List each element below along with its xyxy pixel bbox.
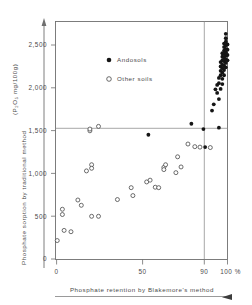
data-point — [90, 214, 94, 218]
data-point — [189, 122, 193, 126]
data-point — [90, 166, 94, 170]
legend-marker-andosols — [107, 58, 112, 63]
data-point — [226, 48, 230, 52]
legend-label-other-soils: Other soils — [117, 75, 153, 82]
data-point — [174, 171, 178, 175]
plot-canvas: 0 500 1,000 1,500 2,000 2,500 0 50 90 10… — [0, 0, 252, 305]
x-axis-title-arrow — [222, 294, 232, 300]
data-point — [97, 124, 101, 128]
data-point — [217, 81, 221, 85]
data-point — [88, 127, 92, 131]
data-point — [131, 194, 135, 198]
data-point — [219, 87, 223, 91]
data-point — [202, 127, 206, 131]
y-axis-spine — [42, 18, 47, 268]
x-tick-label-100: 100 % — [220, 268, 241, 275]
data-point — [115, 198, 119, 202]
data-point — [157, 186, 161, 190]
data-point — [148, 178, 152, 182]
x-tick-label-50: 50 — [139, 268, 147, 275]
data-point — [220, 77, 224, 81]
data-point — [84, 169, 88, 173]
data-point — [129, 186, 133, 190]
y-tick-label-1500: 1,500 — [29, 127, 48, 134]
data-point — [79, 203, 83, 207]
data-point — [198, 145, 202, 149]
data-point — [193, 145, 197, 149]
legend-label-andosols: Andosols — [117, 56, 147, 63]
data-point — [210, 109, 214, 113]
legend-marker-other-soils — [107, 77, 112, 82]
x-tick-label-90: 90 — [200, 268, 208, 275]
series-andosols — [146, 32, 229, 149]
x-tick-marks — [57, 260, 228, 265]
data-point — [69, 230, 73, 234]
data-point — [176, 155, 180, 159]
data-point — [55, 239, 59, 243]
data-point — [215, 91, 219, 95]
data-point — [220, 82, 224, 86]
data-point — [214, 87, 218, 91]
data-point — [224, 32, 228, 36]
data-point — [76, 198, 80, 202]
x-axis-title: Phosphate retention by Blakemore's metho… — [70, 286, 214, 293]
y-axis-unit: (P₂O₅ mg/100g) — [11, 64, 18, 115]
data-point — [186, 142, 190, 146]
data-point — [226, 53, 230, 57]
data-point — [62, 228, 66, 232]
data-point — [222, 73, 226, 77]
data-point — [146, 133, 150, 137]
data-point — [217, 97, 221, 101]
data-point — [212, 102, 216, 106]
y-tick-label-0: 0 — [43, 255, 47, 262]
scatter-plot-figure: 0 500 1,000 1,500 2,000 2,500 0 50 90 10… — [0, 0, 252, 305]
data-point — [217, 126, 221, 130]
data-point — [179, 165, 183, 169]
data-point — [226, 43, 230, 47]
data-point — [203, 145, 207, 149]
y-tick-label-2500: 2,500 — [29, 41, 48, 48]
data-point — [224, 36, 228, 40]
data-point — [226, 58, 230, 62]
data-point — [60, 207, 64, 211]
data-point — [60, 213, 64, 217]
legend: Andosols Other soils — [107, 56, 153, 82]
y-tick-label-500: 500 — [35, 213, 47, 220]
series-other-soils — [55, 124, 212, 242]
data-point — [164, 163, 168, 167]
x-tick-label-0: 0 — [55, 268, 59, 275]
data-point — [208, 146, 212, 150]
y-tick-label-2000: 2,000 — [29, 84, 48, 91]
y-tick-label-1000: 1,000 — [29, 170, 48, 177]
y-axis-title: Phosphate sorption by traditional method — [20, 131, 27, 265]
data-point — [97, 214, 101, 218]
y-tick-marks — [51, 45, 56, 259]
data-point — [224, 65, 228, 69]
data-point — [162, 168, 166, 172]
